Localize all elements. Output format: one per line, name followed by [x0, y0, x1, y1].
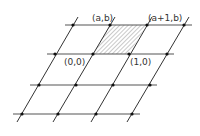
lattice-diagram: (a,b) (a+1,b) (0,0) (1,0): [0, 0, 200, 136]
slanted-line: [53, 17, 115, 122]
lattice-point: [111, 83, 114, 86]
lattice-point: [130, 112, 133, 115]
lattice-point: [145, 23, 148, 26]
lattice-point: [94, 112, 97, 115]
label-a-plus-1-b: (a+1,b): [148, 13, 182, 23]
lattice-point: [148, 83, 151, 86]
label-a-b: (a,b): [92, 13, 113, 23]
lattice-point: [108, 23, 111, 26]
lattice-point: [165, 52, 168, 55]
lattice-point: [53, 52, 56, 55]
slanted-lines: [17, 17, 189, 122]
lattice-point: [127, 52, 130, 55]
lattice-point: [20, 112, 23, 115]
lattice-point: [91, 52, 94, 55]
lattice-point: [56, 112, 59, 115]
lattice-point: [71, 23, 74, 26]
slanted-line: [17, 17, 78, 122]
lattice-point: [182, 23, 185, 26]
label-origin: (0,0): [64, 57, 85, 67]
lattice-point: [74, 83, 77, 86]
lattice-point: [37, 83, 40, 86]
label-1-0: (1,0): [130, 57, 151, 67]
